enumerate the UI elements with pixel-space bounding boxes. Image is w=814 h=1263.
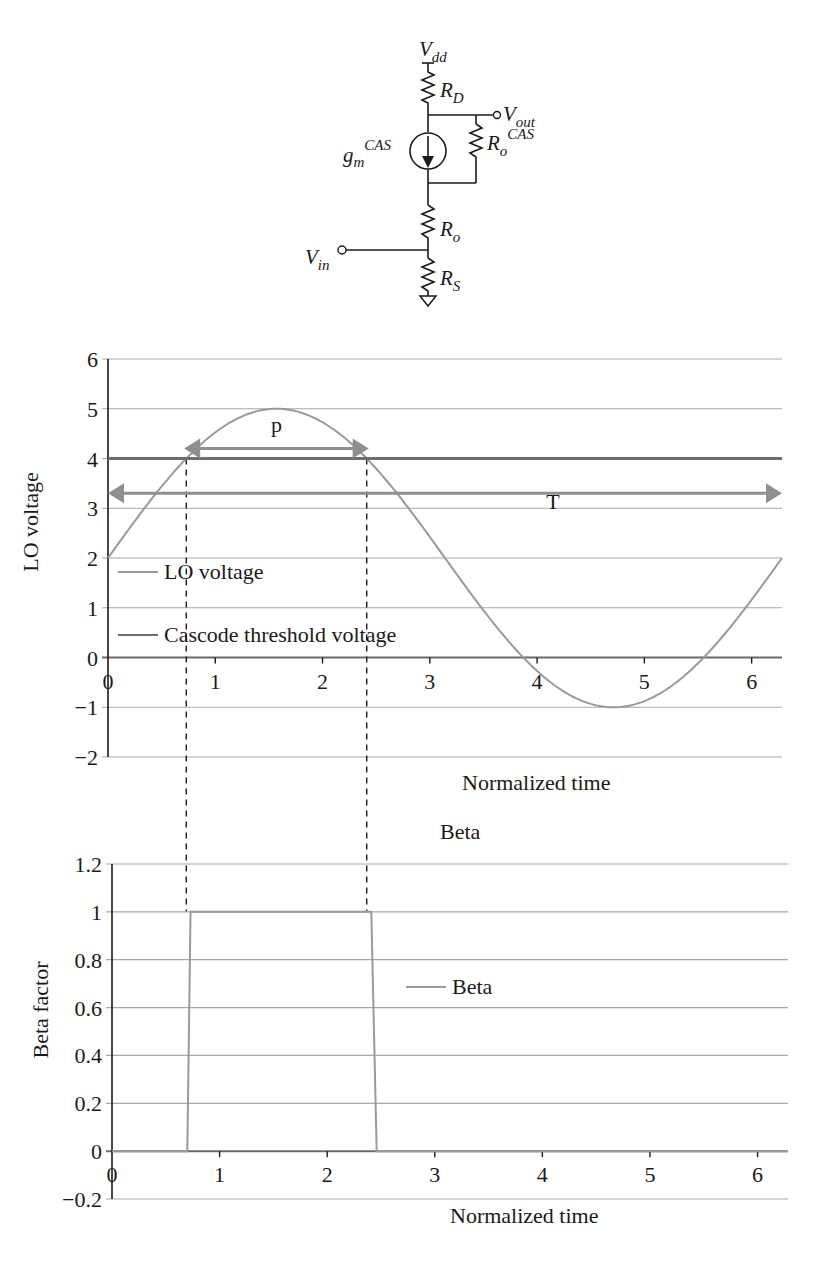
y-axis-title: LO voltage	[18, 472, 43, 572]
y-tick-label: 1	[91, 900, 102, 925]
y-tick-label: 0	[87, 646, 98, 671]
y-tick-label: 5	[87, 397, 98, 422]
x-tick-label: 3	[424, 669, 435, 694]
x-axis-title: Normalized time	[450, 1203, 598, 1228]
arrow-head-left-icon	[108, 483, 124, 503]
resistor-rd-symbol	[422, 69, 434, 115]
y-tick-label: 0.4	[75, 1043, 103, 1068]
resistor-rs-symbol	[422, 258, 434, 296]
chart-title: Beta	[440, 819, 481, 844]
y-tick-label: 4	[87, 447, 98, 472]
annotation-label-T: T	[546, 489, 560, 514]
y-tick-label: 1	[87, 596, 98, 621]
arrow-head-right-icon	[353, 439, 369, 459]
y-tick-label: −0.2	[62, 1187, 102, 1212]
vin-label: Vin	[305, 245, 330, 273]
rs-label: RS	[439, 266, 461, 294]
gm-cas-label: gmCAS	[343, 137, 392, 170]
x-tick-label: 6	[752, 1162, 763, 1187]
lo-voltage-chart: 6543210−1−20123456Normalized timeLO volt…	[18, 347, 782, 912]
vdd-label: Vdd	[419, 37, 447, 65]
y-tick-label: 6	[87, 347, 98, 372]
x-tick-label: 0	[103, 669, 114, 694]
cascode-circuit-schematic	[346, 63, 494, 296]
y-tick-label: 2	[87, 546, 98, 571]
x-tick-label: 4	[537, 1162, 548, 1187]
x-tick-label: 2	[322, 1162, 333, 1187]
x-tick-label: 6	[746, 669, 757, 694]
x-tick-label: 1	[214, 1162, 225, 1187]
y-tick-label: 0	[91, 1139, 102, 1164]
beta-chart: 1.210.80.60.40.20−0.20123456Normalized t…	[28, 819, 788, 1228]
y-tick-label: 0.2	[75, 1091, 103, 1116]
rd-label: RD	[439, 78, 464, 106]
y-tick-label: −2	[75, 745, 98, 770]
y-tick-label: −1	[75, 695, 98, 720]
figure-canvas: Vdd RD Vout gmCAS RoCAS Ro Vin RS 654321…	[0, 0, 814, 1263]
ro-label: Ro	[439, 217, 461, 245]
x-tick-label: 3	[429, 1162, 440, 1187]
ro-cas-label: RoCAS	[486, 126, 534, 159]
y-tick-label: 0.6	[75, 996, 103, 1021]
ground-icon	[420, 296, 436, 306]
x-tick-label: 1	[210, 669, 221, 694]
legend-label: Beta	[452, 974, 493, 999]
arrow-head-right-icon	[766, 483, 782, 503]
x-tick-label: 5	[644, 1162, 655, 1187]
vin-terminal	[338, 246, 346, 254]
legend-label: LO voltage	[164, 559, 264, 584]
y-tick-label: 3	[87, 496, 98, 521]
annotation-label-p: p	[271, 412, 282, 437]
series-line-beta	[112, 912, 788, 1151]
resistor-rocas-symbol	[470, 124, 482, 183]
y-tick-label: 1.2	[75, 852, 103, 877]
x-tick-label: 2	[317, 669, 328, 694]
x-axis-title: Normalized time	[462, 770, 610, 795]
x-tick-label: 0	[107, 1162, 118, 1187]
y-tick-label: 0.8	[75, 948, 103, 973]
x-tick-label: 5	[639, 669, 650, 694]
y-axis-title: Beta factor	[28, 961, 53, 1059]
vout-terminal	[494, 112, 501, 119]
current-arrow-icon	[422, 156, 434, 168]
arrow-head-left-icon	[184, 439, 200, 459]
legend-label: Cascode threshold voltage	[164, 622, 396, 647]
